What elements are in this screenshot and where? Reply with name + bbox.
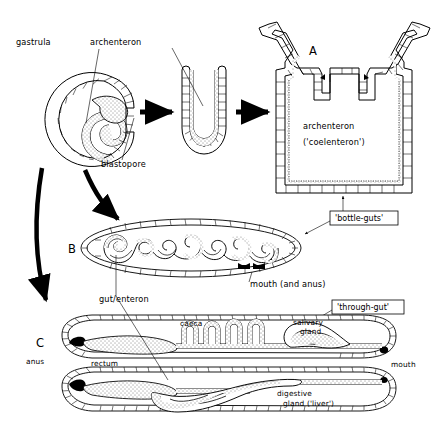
panel-b-mouth-anus-label: mouth (and anus) [250,279,326,289]
bottle-guts-callout: 'bottle-guts' [305,196,398,234]
panel-a-cavity-label-1: archenteron [303,121,354,131]
panel-c-letter: C [36,336,44,350]
panel-c-salivary-label-2: gland [300,327,322,336]
panel-b-gut-enteron-label: gut/enteron [99,294,149,304]
panel-c-rectum-label: rectum [91,359,118,368]
panel-a-letter: A [309,44,317,58]
panel-b-letter: B [68,242,76,256]
panel-a-figure: A archenteron ('coelenteron') [259,22,430,193]
panel-c-mouth-label: mouth [391,360,416,369]
panel-c-upper-body: C anus mouth caeca salivary gland [26,315,416,369]
panel-c-lower-body: rectum digestive gland ('liver') [62,359,396,412]
panel-b-figure: B mouth (and anus) gut/enteron [68,219,326,304]
arrow-gastrula-to-b [85,170,118,219]
diagram-canvas: gastrula archenteron blastopore [0,0,436,441]
panel-c-caeca-label: caeca [180,319,202,328]
bottle-guts-text: 'bottle-guts' [335,214,383,223]
arrow-gastrula-to-c [36,168,46,300]
gastrula-figure: gastrula archenteron blastopore [16,37,146,169]
blastopore-label: blastopore [101,159,146,169]
u-shaped-gut-figure [172,48,226,154]
panel-c-digestive-label-1: digestive [277,389,312,398]
gastrula-label: gastrula [16,37,51,47]
through-gut-text: 'through-gut' [337,303,389,312]
archenteron-label: archenteron [90,37,141,47]
gut-evolution-diagram: gastrula archenteron blastopore [0,0,436,441]
panel-a-cavity-label-2: ('coelenteron') [303,137,365,147]
panel-c-salivary-label-1: salivary [293,318,323,327]
panel-c-digestive-label-2: gland ('liver') [283,399,334,408]
panel-c-anus-label: anus [26,357,44,366]
